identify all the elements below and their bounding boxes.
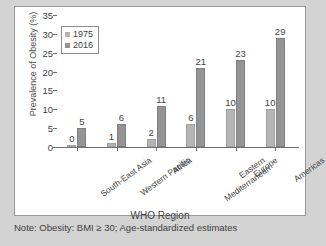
bar-2016-eastern-mediterranean: 21 bbox=[196, 68, 205, 147]
y-tick-label: 5 bbox=[35, 123, 53, 134]
bar-1975-americas: 10 bbox=[266, 109, 275, 147]
y-tick-mark bbox=[53, 15, 57, 16]
x-tick-mark bbox=[156, 147, 157, 151]
legend-item-1975: 1975 bbox=[65, 29, 93, 40]
legend-item-2016: 2016 bbox=[65, 40, 93, 51]
x-tick-mark bbox=[236, 147, 237, 151]
y-tick-mark bbox=[53, 109, 57, 110]
legend-label-2016: 2016 bbox=[73, 40, 93, 51]
bar-1975-africa: 2 bbox=[147, 139, 156, 147]
y-tick-label: 25 bbox=[35, 47, 53, 58]
y-axis-tick-labels: 05101520253035 bbox=[31, 7, 53, 215]
bar-group: 1023 bbox=[216, 15, 256, 147]
bar-value-label: 0 bbox=[69, 133, 74, 145]
bar-2016-africa: 11 bbox=[157, 106, 166, 147]
x-tick-mark bbox=[196, 147, 197, 151]
plot-panel: Prevalence of Obesity (%) 05101520253035… bbox=[14, 6, 306, 216]
chart-legend: 1975 2016 bbox=[61, 26, 99, 54]
x-tick-mark bbox=[117, 147, 118, 151]
y-tick-mark bbox=[53, 72, 57, 73]
y-tick-mark bbox=[53, 90, 57, 91]
y-tick-label: 20 bbox=[35, 66, 53, 77]
x-axis-line bbox=[57, 147, 299, 148]
y-tick-mark bbox=[53, 147, 57, 148]
x-tick-mark bbox=[77, 147, 78, 151]
bar-value-label: 21 bbox=[196, 56, 207, 68]
bar-1975-eastern-mediterranean: 6 bbox=[186, 124, 195, 147]
y-tick-label: 30 bbox=[35, 28, 53, 39]
bar-value-label: 2 bbox=[149, 127, 154, 139]
bar-value-label: 5 bbox=[79, 116, 84, 128]
bar-2016-americas: 29 bbox=[276, 38, 285, 147]
bar-1975-europe: 10 bbox=[226, 109, 235, 147]
bar-2016-europe: 23 bbox=[236, 60, 245, 147]
bar-1975-western-pacific: 1 bbox=[107, 143, 116, 147]
bar-value-label: 29 bbox=[275, 26, 286, 38]
bar-group: 16 bbox=[97, 15, 137, 147]
bar-value-label: 23 bbox=[235, 48, 246, 60]
x-tick-label: Africa bbox=[170, 155, 193, 176]
bar-value-label: 10 bbox=[225, 97, 236, 109]
legend-swatch-2016 bbox=[65, 43, 70, 48]
bar-2016-western-pacific: 6 bbox=[117, 124, 126, 147]
y-tick-label: 35 bbox=[35, 10, 53, 21]
bar-value-label: 1 bbox=[109, 131, 114, 143]
y-tick-label: 0 bbox=[35, 142, 53, 153]
chart-note: Note: Obesity: BMI ≥ 30; Age-standardize… bbox=[14, 222, 237, 233]
legend-swatch-1975 bbox=[65, 32, 70, 37]
legend-label-1975: 1975 bbox=[73, 29, 93, 40]
y-tick-mark bbox=[53, 128, 57, 129]
bar-group: 211 bbox=[136, 15, 176, 147]
bar-value-label: 11 bbox=[156, 94, 166, 106]
y-tick-label: 10 bbox=[35, 104, 53, 115]
y-tick-mark bbox=[53, 34, 57, 35]
y-tick-label: 15 bbox=[35, 85, 53, 96]
bar-value-label: 6 bbox=[119, 112, 124, 124]
x-axis-title: WHO Region bbox=[15, 210, 305, 221]
bar-group: 1029 bbox=[255, 15, 295, 147]
y-tick-mark bbox=[53, 53, 57, 54]
bar-2016-south-east-asia: 5 bbox=[77, 128, 86, 147]
bar-group: 621 bbox=[176, 15, 216, 147]
bar-1975-south-east-asia: 0 bbox=[67, 145, 76, 147]
x-tick-label: Americas bbox=[292, 155, 326, 184]
x-tick-mark bbox=[275, 147, 276, 151]
bar-value-label: 10 bbox=[265, 97, 276, 109]
bar-value-label: 6 bbox=[188, 112, 193, 124]
